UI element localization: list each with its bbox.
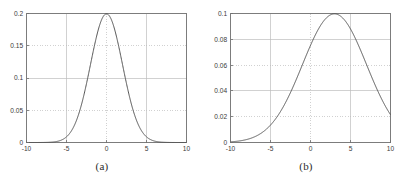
x-tick-label: 10 xyxy=(387,145,395,152)
x-tick-label: -10 xyxy=(22,145,32,152)
panel-caption-a: (a) xyxy=(0,160,204,172)
y-tick-label: 0 xyxy=(223,139,227,146)
y-tick-label: 0.02 xyxy=(214,113,227,120)
gaussian-curve xyxy=(231,14,391,142)
x-tick-label: 10 xyxy=(183,145,191,152)
x-tick-label: -5 xyxy=(268,145,274,152)
x-tick-label: 0 xyxy=(309,145,313,152)
y-tick-label: 0.1 xyxy=(14,74,23,81)
gaussian-plot-b: -10-5051000.020.040.060.080.1 xyxy=(204,0,408,160)
gaussian-plot-a: -10-5051000.050.10.150.2 xyxy=(0,0,204,160)
y-tick-label: 0.06 xyxy=(214,62,227,69)
x-tick-label: 5 xyxy=(145,145,149,152)
x-tick-label: -5 xyxy=(64,145,70,152)
y-tick-label: 0 xyxy=(19,139,23,146)
y-tick-label: 0.2 xyxy=(14,10,23,17)
plot-area-a: -10-5051000.050.10.150.2 xyxy=(0,0,204,160)
y-tick-label: 0.08 xyxy=(214,36,227,43)
x-tick-label: -10 xyxy=(226,145,236,152)
panel-caption-b: (b) xyxy=(204,160,408,172)
y-tick-label: 0.15 xyxy=(10,42,23,49)
figure-panel-b: -10-5051000.020.040.060.080.1 (b) xyxy=(204,0,408,188)
figure-panel-row: -10-5051000.050.10.150.2 (a) -10-5051000… xyxy=(0,0,409,188)
figure-panel-a: -10-5051000.050.10.150.2 (a) xyxy=(0,0,204,188)
y-tick-label: 0.04 xyxy=(214,87,227,94)
x-tick-label: 0 xyxy=(105,145,109,152)
y-tick-label: 0.05 xyxy=(10,107,23,114)
y-tick-label: 0.1 xyxy=(218,10,227,17)
plot-area-b: -10-5051000.020.040.060.080.1 xyxy=(204,0,408,160)
x-tick-label: 5 xyxy=(349,145,353,152)
